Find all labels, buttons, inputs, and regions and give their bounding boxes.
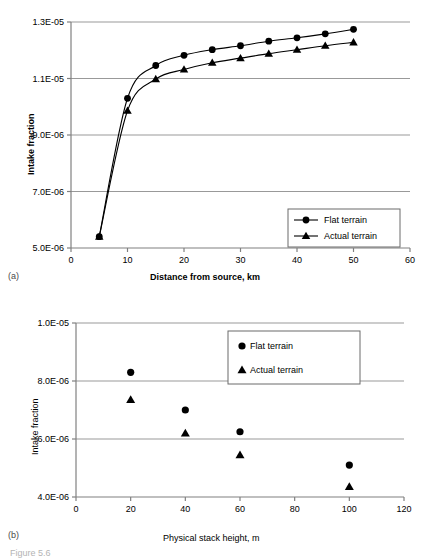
x-tick-label: 0 [68, 255, 73, 265]
data-point-triangle [181, 429, 190, 437]
data-point-triangle [345, 482, 354, 490]
figure-panel-b: 4.0E-066.0E-068.0E-061.0E-05020406080100… [0, 290, 437, 555]
x-axis-title-a: Distance from source, km [150, 272, 260, 282]
y-tick-label: 8.0E-06 [37, 376, 69, 386]
data-point-circle [181, 52, 188, 59]
x-tick-label: 50 [348, 255, 358, 265]
x-tick-label: 100 [342, 504, 357, 514]
data-point-circle [350, 26, 357, 33]
x-tick-label: 60 [405, 255, 415, 265]
legend-label: Flat terrain [324, 215, 367, 225]
legend-label: Actual terrain [250, 365, 303, 375]
y-tick-label: 1.3E-05 [32, 17, 64, 27]
data-point-circle [182, 406, 189, 413]
data-point-triangle [126, 395, 135, 403]
data-point-circle [236, 428, 243, 435]
panel-tag-b: (b) [8, 530, 19, 540]
y-tick-label: 1.1E-05 [32, 74, 64, 84]
data-point-triangle [236, 450, 245, 458]
y-tick-label: 1.0E-05 [37, 318, 69, 328]
chart-panel-a: 5.0E-067.0E-069.0E-061.1E-051.3E-0501020… [0, 0, 437, 290]
y-axis-title-a: Intake fraction [26, 113, 36, 175]
y-tick-label: 5.0E-06 [32, 243, 64, 253]
x-tick-label: 40 [180, 504, 190, 514]
data-point-circle [265, 38, 272, 45]
figure-panel-a: 5.0E-067.0E-069.0E-061.1E-051.3E-0501020… [0, 0, 437, 290]
panel-tag-a: (a) [8, 271, 19, 281]
data-point-circle [346, 462, 353, 469]
legend-marker-circle [303, 217, 310, 224]
data-point-circle [322, 30, 329, 37]
legend-marker-circle [238, 342, 245, 349]
x-tick-label: 10 [122, 255, 132, 265]
data-point-triangle [349, 38, 358, 45]
y-axis-title-b: Intake fraction [30, 398, 40, 455]
x-tick-label: 0 [73, 504, 78, 514]
x-tick-label: 80 [290, 504, 300, 514]
data-point-circle [127, 369, 134, 376]
legend-label: Actual terrain [324, 231, 377, 241]
y-tick-label: 9.0E-06 [32, 130, 64, 140]
x-tick-label: 20 [179, 255, 189, 265]
x-tick-label: 30 [235, 255, 245, 265]
data-point-circle [152, 62, 159, 69]
data-point-circle [294, 34, 301, 41]
x-tick-label: 20 [126, 504, 136, 514]
x-axis-title-b: Physical stack height, m [163, 533, 260, 543]
legend-label: Flat terrain [250, 341, 293, 351]
data-point-circle [209, 46, 216, 53]
x-tick-label: 40 [292, 255, 302, 265]
x-tick-label: 60 [235, 504, 245, 514]
series-line-2 [99, 42, 353, 236]
y-tick-label: 7.0E-06 [32, 187, 64, 197]
legend-box [228, 331, 360, 384]
figure-caption: Figure 5.6 [10, 548, 51, 558]
y-tick-label: 6.0E-06 [37, 434, 69, 444]
data-point-circle [124, 95, 131, 102]
x-tick-label: 120 [396, 504, 411, 514]
data-point-circle [237, 42, 244, 49]
chart-panel-b: 4.0E-066.0E-068.0E-061.0E-05020406080100… [0, 290, 437, 555]
y-tick-label: 4.0E-06 [37, 492, 69, 502]
